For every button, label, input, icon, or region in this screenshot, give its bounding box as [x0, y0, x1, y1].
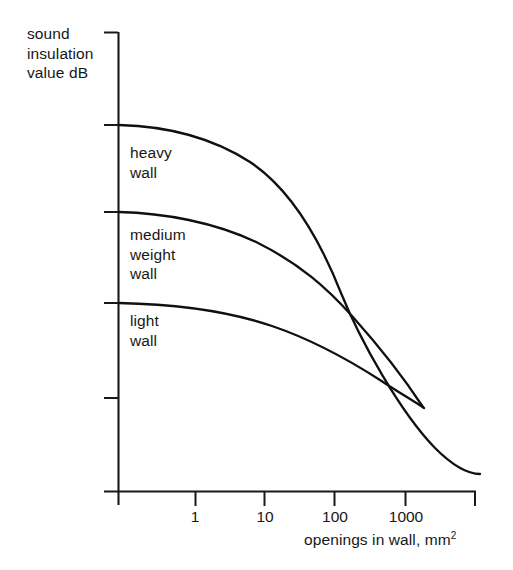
curve-label-medium-weight-wall: medium weight wall: [130, 225, 186, 284]
x-tick-label-100: 100: [322, 508, 348, 526]
y-axis-title: sound insulation value dB: [27, 24, 94, 83]
x-tick-label-1000: 1000: [389, 508, 423, 526]
x-axis-title-superscript: 2: [451, 530, 457, 541]
x-axis-title: openings in wall, mm2: [304, 530, 456, 550]
curve-label-heavy-wall: heavy wall: [130, 143, 172, 182]
curve-light-wall: [119, 303, 424, 408]
curve-heavy-wall: [119, 125, 480, 474]
x-axis-title-text: openings in wall, mm: [304, 531, 451, 548]
chart-canvas: [0, 0, 513, 570]
chart-figure: sound insulation value dB heavy wall med…: [0, 0, 513, 570]
x-tick-label-10: 10: [256, 508, 273, 526]
curve-label-light-wall: light wall: [130, 311, 159, 350]
x-tick-label-1: 1: [191, 508, 200, 526]
